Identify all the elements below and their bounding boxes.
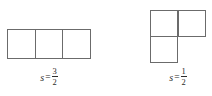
right-label-fraction: 1 2 [181,67,187,86]
left-shape-cell-1 [35,29,64,59]
right-label-denominator: 2 [181,77,187,86]
right-shape-label: s = 1 2 [144,66,212,88]
left-shape-cell-2 [62,29,91,59]
left-label-numerator: 3 [52,67,58,76]
left-shape-label: s = 3 2 [7,66,91,88]
right-shape-cell-2 [150,36,178,63]
left-label-denominator: 2 [52,77,58,86]
figure-panel: s = 3 2 s = 1 2 [0,0,212,96]
left-label-fraction: 3 2 [52,67,58,86]
left-shape-cell-0 [7,29,36,59]
right-label-numerator: 1 [181,67,187,76]
right-shape-cell-0 [150,10,178,37]
right-shape-cell-1 [178,10,206,37]
